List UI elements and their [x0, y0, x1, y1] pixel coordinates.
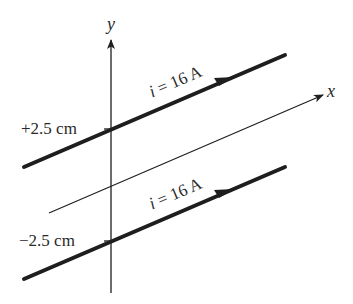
lower-wire	[24, 167, 285, 279]
two-parallel-wires-diagram: y x +2.5 cm −2.5 cm i = 16 A i = 16 A	[0, 0, 353, 304]
x-axis-label: x	[327, 81, 335, 102]
upper-wire	[24, 55, 285, 167]
y-axis-label: y	[107, 14, 115, 35]
diagram-canvas	[0, 0, 353, 304]
lower-wire-position-label: −2.5 cm	[19, 231, 75, 251]
upper-wire-position-label: +2.5 cm	[21, 119, 77, 139]
